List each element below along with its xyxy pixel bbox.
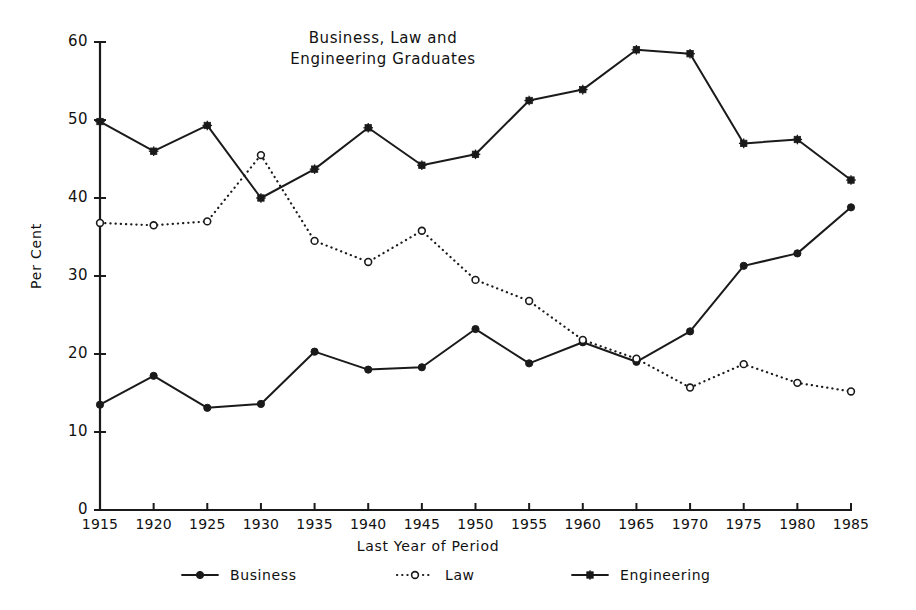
data-point-marker [632, 45, 642, 55]
data-point-marker [524, 96, 534, 106]
y-axis-tick-label: 60 [48, 32, 88, 50]
x-axis-tick-label: 1925 [181, 516, 233, 532]
data-point-marker [150, 372, 157, 379]
data-point-marker [794, 379, 801, 386]
x-axis-tick-label: 1955 [503, 516, 555, 532]
x-axis-label: Last Year of Period [258, 538, 598, 554]
data-point-marker [258, 152, 265, 159]
legend-label: Business [220, 567, 297, 583]
data-point-marker [472, 277, 479, 284]
data-point-marker [846, 175, 856, 185]
chart-series-law [97, 152, 855, 395]
chart-axes [94, 42, 851, 511]
x-axis-tick-label: 1920 [128, 516, 180, 532]
data-point-marker [794, 250, 801, 257]
data-point-marker [202, 121, 212, 131]
data-point-marker [150, 222, 157, 229]
y-axis-tick-label: 10 [48, 422, 88, 440]
x-axis-tick-label: 1915 [74, 516, 126, 532]
legend-entry-business: Business [180, 563, 297, 587]
data-point-marker [686, 328, 693, 335]
data-point-marker [365, 366, 372, 373]
y-axis-tick-label: 20 [48, 344, 88, 362]
data-point-marker [579, 337, 586, 344]
data-point-marker [417, 160, 427, 170]
x-axis-tick-label: 1965 [610, 516, 662, 532]
data-point-marker [204, 404, 211, 411]
legend-entry-law: Law [395, 563, 475, 587]
legend-entry-engineering: Engineering [570, 563, 711, 587]
y-axis-label: Per Cent [28, 206, 44, 306]
data-point-marker [149, 146, 159, 156]
data-point-marker [471, 150, 481, 160]
data-point-marker [257, 400, 264, 407]
chart-figure: Business, Law and Engineering Graduates … [0, 0, 916, 610]
data-point-marker [96, 401, 103, 408]
data-point-marker [204, 218, 211, 225]
x-axis-tick-label: 1945 [396, 516, 448, 532]
data-point-marker [585, 570, 595, 580]
data-point-marker [412, 572, 419, 579]
data-point-marker [526, 360, 533, 367]
series-line [100, 207, 851, 407]
legend-sample-law-icon [395, 568, 435, 582]
data-point-marker [578, 85, 588, 95]
data-point-marker [196, 571, 203, 578]
x-axis-tick-label: 1950 [450, 516, 502, 532]
legend-sample-business-icon [180, 568, 220, 582]
x-axis-tick-label: 1985 [825, 516, 877, 532]
data-point-marker [310, 164, 320, 174]
data-point-marker [363, 123, 373, 133]
x-axis-tick-label: 1960 [557, 516, 609, 532]
data-point-marker [418, 227, 425, 234]
x-axis-tick-label: 1980 [771, 516, 823, 532]
data-point-marker [311, 348, 318, 355]
data-point-marker [739, 139, 749, 149]
chart-series-layer [95, 45, 856, 411]
data-point-marker [526, 298, 533, 305]
data-point-marker [740, 262, 747, 269]
x-axis-tick-label: 1975 [718, 516, 770, 532]
data-point-marker [740, 361, 747, 368]
x-axis-tick-label: 1935 [289, 516, 341, 532]
data-point-marker [97, 220, 104, 227]
legend-label: Law [435, 567, 475, 583]
data-point-marker [256, 193, 266, 203]
data-point-marker [311, 238, 318, 245]
data-point-marker [793, 135, 803, 145]
chart-title: Business, Law and Engineering Graduates [258, 28, 508, 70]
y-axis-tick-label: 50 [48, 110, 88, 128]
chart-series-business [96, 204, 854, 412]
data-point-marker [472, 325, 479, 332]
data-point-marker [95, 117, 105, 127]
data-point-marker [685, 49, 695, 59]
x-axis-tick-label: 1940 [342, 516, 394, 532]
y-axis-tick-label: 40 [48, 188, 88, 206]
data-point-marker [848, 388, 855, 395]
series-line [100, 50, 851, 198]
data-point-marker [418, 364, 425, 371]
data-point-marker [633, 355, 640, 362]
legend-sample-engineering-icon [570, 568, 610, 582]
data-point-marker [687, 384, 694, 391]
data-point-marker [847, 204, 854, 211]
x-axis-tick-label: 1970 [664, 516, 716, 532]
legend-label: Engineering [610, 567, 711, 583]
data-point-marker [365, 259, 372, 266]
chart-legend: BusinessLawEngineering [180, 563, 780, 589]
x-axis-tick-label: 1930 [235, 516, 287, 532]
y-axis-tick-label: 30 [48, 266, 88, 284]
